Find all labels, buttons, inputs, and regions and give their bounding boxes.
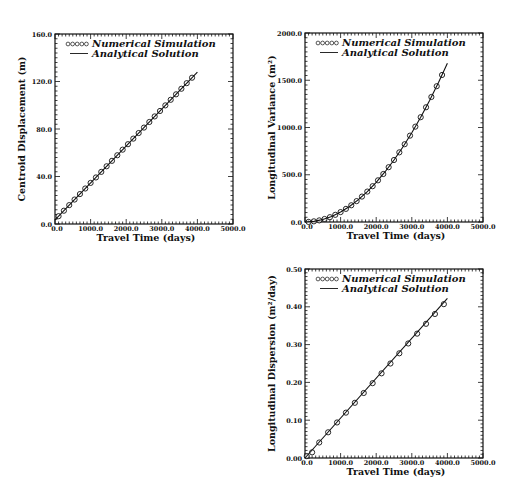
legend: Numerical SimulationAnalytical Solution bbox=[316, 273, 466, 294]
longitudinal-variance-chart: 0.01000.02000.03000.04000.05000.00.0500.… bbox=[250, 0, 515, 245]
y-tick-label: 1500.0 bbox=[277, 77, 302, 85]
legend-circle-icon bbox=[325, 41, 329, 45]
legend-circle-icon bbox=[321, 41, 325, 45]
y-tick-label: 2000.0 bbox=[277, 30, 302, 38]
y-tick-label: 0.00 bbox=[286, 455, 302, 463]
x-axis-title: Travel Time (days) bbox=[97, 232, 196, 243]
y-tick-label: 500.0 bbox=[282, 171, 303, 179]
plot-frame bbox=[305, 269, 483, 458]
legend-circle-icon bbox=[335, 41, 339, 45]
legend-circle-icon bbox=[325, 277, 329, 281]
y-tick-label: 1000.0 bbox=[277, 124, 302, 132]
y-tick-label: 0.50 bbox=[286, 266, 302, 274]
numerical-simulation-markers bbox=[306, 72, 445, 224]
x-tick-label: 0.0 bbox=[301, 459, 313, 467]
x-tick-label: 0.0 bbox=[51, 225, 63, 233]
legend-circle-icon bbox=[330, 41, 334, 45]
dispersion-chart-svg: 0.01000.02000.03000.04000.05000.00.000.1… bbox=[250, 236, 515, 498]
x-tick-label: 5000.0 bbox=[221, 225, 246, 233]
analytical-solution-line bbox=[305, 63, 447, 222]
legend-analytical-label: Analytical Solution bbox=[91, 48, 199, 59]
y-axis-title: Longitudinal Variance (m²) bbox=[266, 55, 277, 199]
x-tick-label: 5000.0 bbox=[471, 459, 496, 467]
longitudinal-dispersion-chart: 0.01000.02000.03000.04000.05000.00.000.1… bbox=[250, 236, 515, 498]
analytical-solution-line bbox=[305, 298, 447, 458]
y-tick-label: 0.0 bbox=[291, 219, 303, 227]
legend-circle-icon bbox=[321, 277, 325, 281]
legend-circle-icon bbox=[316, 277, 320, 281]
tick-marks bbox=[305, 33, 483, 222]
analytical-solution-line bbox=[55, 72, 197, 220]
y-tick-label: 0.20 bbox=[286, 379, 302, 387]
legend-circle-icon bbox=[71, 42, 75, 46]
legend-circle-icon bbox=[330, 277, 334, 281]
y-axis-title: Longitudinal Dispersion (m²/day) bbox=[266, 275, 277, 452]
legend-circle-icon bbox=[316, 41, 320, 45]
legend-circle-icon bbox=[75, 42, 79, 46]
variance-chart-svg: 0.01000.02000.03000.04000.05000.00.0500.… bbox=[250, 0, 515, 245]
y-tick-label: 40.0 bbox=[36, 173, 52, 181]
y-tick-label: 0.40 bbox=[286, 303, 302, 311]
y-tick-label: 0.10 bbox=[286, 417, 302, 425]
centroid-chart-svg: 0.01000.02000.03000.04000.05000.00.040.0… bbox=[0, 0, 260, 245]
y-tick-label: 120.0 bbox=[32, 78, 53, 86]
y-tick-label: 80.0 bbox=[36, 126, 52, 134]
legend: Numerical SimulationAnalytical Solution bbox=[316, 37, 466, 58]
legend-circle-icon bbox=[335, 277, 339, 281]
legend: Numerical SimulationAnalytical Solution bbox=[66, 38, 216, 59]
centroid-displacement-chart: 0.01000.02000.03000.04000.05000.00.040.0… bbox=[0, 0, 260, 245]
y-tick-label: 160.0 bbox=[32, 31, 53, 39]
x-axis-title: Travel Time (days) bbox=[347, 466, 446, 477]
legend-analytical-label: Analytical Solution bbox=[341, 283, 449, 294]
y-tick-label: 0.0 bbox=[41, 221, 53, 229]
y-axis-title: Centroid Displacement (m) bbox=[16, 57, 27, 202]
x-tick-label: 5000.0 bbox=[471, 223, 496, 231]
legend-analytical-label: Analytical Solution bbox=[341, 47, 449, 58]
legend-circle-icon bbox=[66, 42, 70, 46]
tick-marks bbox=[305, 269, 483, 458]
legend-circle-icon bbox=[85, 42, 89, 46]
y-tick-label: 0.30 bbox=[286, 341, 302, 349]
plot-frame bbox=[305, 33, 483, 222]
legend-circle-icon bbox=[80, 42, 84, 46]
